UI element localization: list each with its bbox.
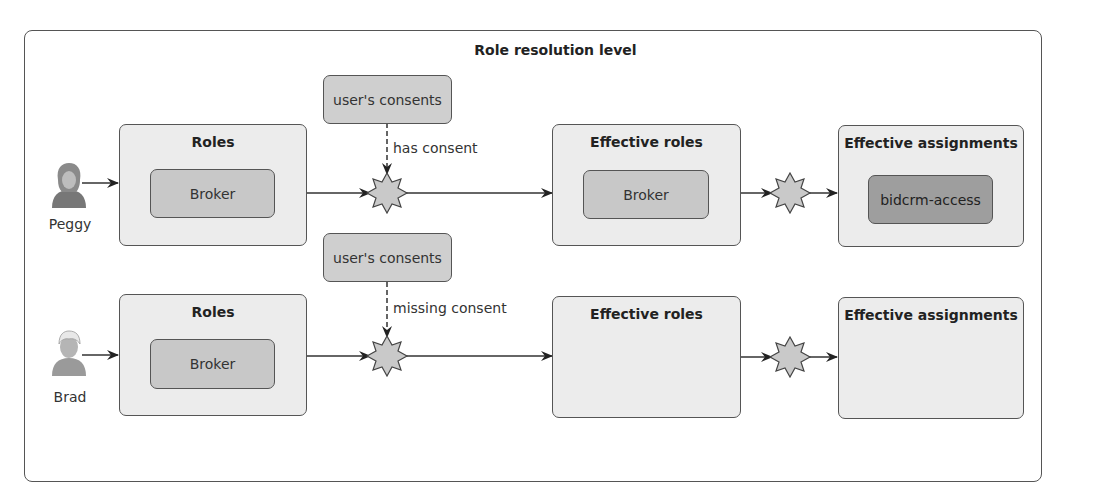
users-consents-node: user's consents <box>323 75 452 124</box>
edge-label-missing-consent: missing consent <box>393 300 507 316</box>
effective-assignments-title: Effective assignments <box>839 307 1023 323</box>
roles-title: Roles <box>120 134 306 150</box>
edge-label-has-consent: has consent <box>393 140 478 156</box>
effective-roles-title: Effective roles <box>553 134 740 150</box>
user-female-icon <box>50 162 88 208</box>
roles-title: Roles <box>120 304 306 320</box>
effective-roles-title: Effective roles <box>553 306 740 322</box>
connectors-layer <box>0 0 1111 504</box>
effective-role-chip-broker: Broker <box>583 170 709 219</box>
star-icon <box>770 337 810 377</box>
user-male-icon <box>50 330 88 376</box>
role-chip-broker: Broker <box>150 169 275 218</box>
star-icon <box>367 336 407 376</box>
role-chip-broker: Broker <box>150 339 275 389</box>
assignment-chip-bidcrm-access: bidcrm-access <box>868 175 993 224</box>
effective-assignments-container: Effective assignments <box>838 297 1024 419</box>
effective-roles-container: Effective roles <box>552 296 741 418</box>
user-name-peggy: Peggy <box>40 216 100 232</box>
users-consents-node: user's consents <box>323 233 452 282</box>
user-name-brad: Brad <box>40 389 100 405</box>
star-icon <box>770 173 810 213</box>
effective-assignments-title: Effective assignments <box>839 135 1023 151</box>
star-icon <box>367 173 407 213</box>
